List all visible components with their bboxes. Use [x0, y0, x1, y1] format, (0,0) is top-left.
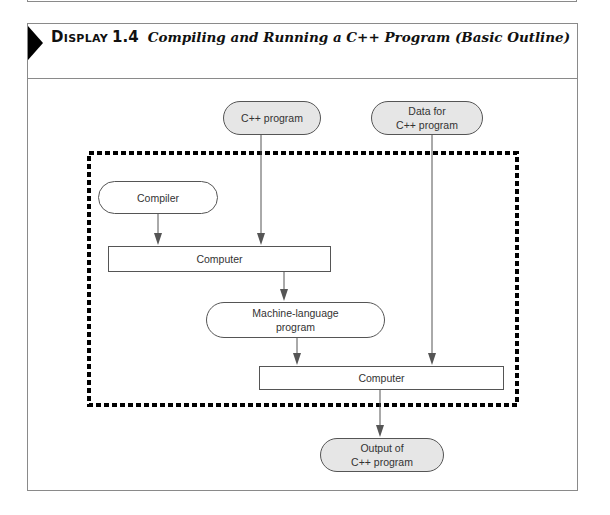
computer-node-2: Computer [259, 366, 504, 390]
ml-node-line1: Machine-language [252, 306, 338, 320]
data-for-program-node: Data for C++ program [371, 101, 483, 135]
machine-language-node: Machine-language program [206, 302, 385, 338]
output-node-line1: Output of [360, 441, 403, 455]
ml-node-line2: program [276, 320, 315, 334]
output-node: Output of C++ program [320, 438, 444, 472]
data-node-line2: C++ program [396, 118, 458, 132]
data-node-line1: Data for [408, 104, 445, 118]
computer-node-1: Computer [108, 246, 331, 272]
cpp-program-label: C++ program [241, 111, 303, 125]
compiler-label: Compiler [137, 191, 179, 205]
output-node-line2: C++ program [351, 455, 413, 469]
compiler-node: Compiler [98, 181, 218, 214]
cpp-program-node: C++ program [223, 101, 321, 135]
computer-1-label: Computer [196, 252, 242, 266]
computer-2-label: Computer [358, 371, 404, 385]
